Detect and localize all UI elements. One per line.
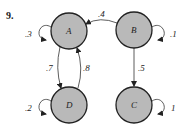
node-d: D — [51, 87, 87, 123]
edge-label-b-c: .5 — [138, 63, 145, 73]
edge-a-to-d: .7 — [46, 47, 61, 88]
node-label-a: A — [65, 26, 72, 36]
edge-b-to-c: .5 — [134, 48, 145, 86]
edge-label-c-c: 1 — [171, 103, 176, 113]
markov-chain-diagram: 9. .4 .5 .7 .8 .3 .1 .2 1 A B — [0, 0, 182, 125]
self-loop-a: .3 — [25, 25, 51, 40]
edge-d-to-a: .8 — [77, 48, 90, 88]
edge-label-a-d: .7 — [46, 63, 53, 73]
edge-label-b-b: .1 — [170, 29, 177, 39]
node-label-d: D — [65, 100, 73, 110]
node-a: A — [51, 13, 87, 49]
edge-label-d-a: .8 — [83, 63, 90, 73]
self-loop-d: .2 — [25, 99, 51, 114]
self-loop-c: 1 — [152, 99, 176, 114]
node-c: C — [116, 87, 152, 123]
self-loop-b: .1 — [152, 25, 177, 40]
problem-number: 9. — [6, 10, 14, 21]
node-label-b: B — [131, 25, 137, 35]
edge-b-to-a: .4 — [86, 9, 117, 24]
edge-label-a-a: .3 — [25, 29, 32, 39]
edge-label-b-a: .4 — [98, 9, 105, 19]
node-b: B — [116, 12, 152, 48]
node-label-c: C — [131, 100, 138, 110]
edge-label-d-d: .2 — [25, 103, 32, 113]
